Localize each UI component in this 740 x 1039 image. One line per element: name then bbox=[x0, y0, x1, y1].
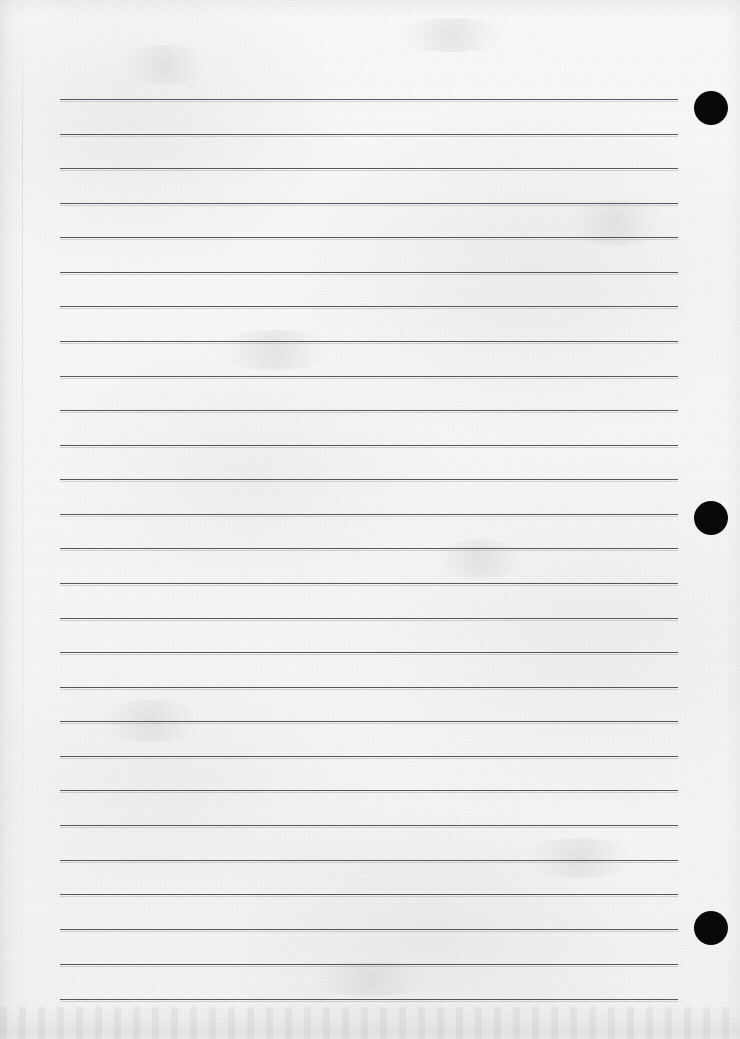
hole-marker-dot bbox=[694, 911, 728, 945]
scanned-page bbox=[0, 0, 740, 1039]
hole-marker-dot bbox=[694, 501, 728, 535]
paper-background bbox=[0, 0, 740, 1039]
hole-marker-dot bbox=[694, 91, 728, 125]
